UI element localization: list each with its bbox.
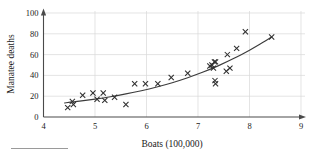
- y-tick-label: 80: [30, 29, 39, 39]
- data-point-marker: [102, 98, 107, 103]
- data-point-marker: [212, 59, 217, 64]
- y-tick-label: 20: [30, 91, 39, 101]
- data-point-marker: [155, 81, 160, 86]
- x-axis-arrow-icon: [299, 114, 306, 119]
- y-tick-label: 40: [30, 70, 39, 80]
- x-tick-label: 7: [196, 121, 200, 131]
- data-point-marker: [101, 90, 106, 95]
- data-point-marker: [112, 95, 117, 100]
- data-point-marker: [269, 34, 274, 39]
- x-tick-label: 9: [299, 121, 303, 131]
- data-point-marker: [65, 105, 70, 110]
- y-tick-label: 100: [26, 8, 39, 18]
- x-tick-label-group: 456789: [41, 121, 303, 131]
- data-point-marker: [234, 46, 239, 51]
- y-tick-label-group: 020406080100: [26, 8, 39, 122]
- chart-canvas: 020406080100 456789 Manatee deaths Boats…: [0, 0, 321, 153]
- data-point-marker: [213, 81, 218, 86]
- x-tick-label: 8: [247, 121, 251, 131]
- x-tick-label: 5: [93, 121, 97, 131]
- y-axis-arrow-icon: [41, 9, 46, 16]
- y-tick-label: 0: [34, 112, 38, 122]
- y-tick-label: 60: [30, 50, 39, 60]
- data-point-marker: [123, 102, 128, 107]
- x-axis-title: Boats (100,000): [141, 139, 202, 150]
- data-point-marker: [132, 81, 137, 86]
- data-point-group: [65, 29, 274, 110]
- data-point-marker: [213, 59, 218, 64]
- manatee-deaths-scatter-chart: 020406080100 456789 Manatee deaths Boats…: [0, 0, 321, 153]
- x-tick-label: 4: [41, 121, 46, 131]
- data-point-marker: [143, 81, 148, 86]
- data-point-marker: [227, 66, 232, 71]
- axes-group: [41, 9, 306, 120]
- x-tick-label: 6: [144, 121, 148, 131]
- y-axis-title: Manatee deaths: [6, 34, 16, 94]
- data-point-marker: [80, 93, 85, 98]
